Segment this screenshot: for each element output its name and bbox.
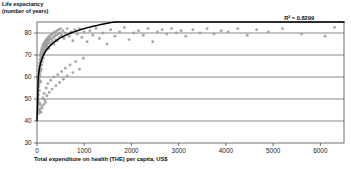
data-point <box>54 84 57 87</box>
data-point <box>64 67 67 70</box>
data-point <box>45 94 48 97</box>
data-point <box>142 34 145 37</box>
data-point <box>43 92 46 95</box>
scatter-plot: 304050607080 0100020003000400050006000 <box>0 0 351 169</box>
data-point <box>60 70 63 73</box>
data-point <box>123 26 126 29</box>
data-point <box>88 29 91 32</box>
data-point <box>69 63 72 66</box>
y-tick-label: 40 <box>24 117 32 124</box>
data-point <box>191 28 194 31</box>
data-point <box>137 29 140 32</box>
data-point <box>91 34 94 37</box>
data-point <box>86 40 89 43</box>
data-point <box>102 32 105 35</box>
data-point <box>246 34 249 37</box>
data-point <box>76 33 79 36</box>
x-tick-label: 3000 <box>172 147 187 154</box>
y-tick-label: 50 <box>24 95 32 102</box>
data-point <box>40 111 43 114</box>
plot-area-border <box>37 22 344 143</box>
data-point <box>58 81 61 84</box>
data-point <box>64 32 67 35</box>
data-point <box>147 27 150 30</box>
data-point <box>198 32 201 35</box>
data-point <box>236 27 239 30</box>
data-point <box>53 76 56 79</box>
data-point <box>62 37 65 40</box>
data-point <box>98 37 101 40</box>
data-point <box>62 78 65 81</box>
data-point <box>105 43 108 46</box>
data-point <box>156 30 159 33</box>
data-point <box>324 35 327 38</box>
data-point <box>78 68 81 71</box>
x-tick-label: 0 <box>35 147 39 154</box>
data-point <box>118 30 121 33</box>
y-tick-label: 30 <box>24 139 32 146</box>
data-point <box>109 28 112 31</box>
data-point <box>227 30 230 33</box>
data-point <box>267 30 270 33</box>
data-point <box>175 32 178 35</box>
data-point <box>95 27 98 30</box>
data-point <box>281 27 284 30</box>
data-point <box>71 39 74 42</box>
data-point <box>213 33 216 36</box>
data-point <box>45 87 48 90</box>
data-point <box>83 30 86 33</box>
chart-container: Life expectancy(number of years) 3040506… <box>0 0 351 169</box>
plot-background <box>37 22 344 143</box>
data-point <box>39 80 42 83</box>
y-tick-label: 80 <box>24 29 32 36</box>
data-point <box>61 29 64 32</box>
data-point <box>151 40 154 43</box>
y-tick-label: 60 <box>24 73 32 80</box>
data-point <box>66 27 69 30</box>
data-point <box>74 60 77 63</box>
data-point <box>42 103 45 106</box>
data-point <box>41 106 44 109</box>
data-point <box>68 35 71 38</box>
data-point <box>113 35 116 38</box>
data-point <box>300 33 303 36</box>
data-point <box>184 35 187 38</box>
x-axis-ticks: 0100020003000400050006000 <box>35 143 328 154</box>
data-point <box>40 68 43 71</box>
data-point <box>80 36 83 39</box>
data-point <box>46 82 49 85</box>
y-axis-ticks: 304050607080 <box>24 29 37 146</box>
x-tick-label: 5000 <box>266 147 281 154</box>
data-point <box>56 73 59 76</box>
y-tick-label: 70 <box>24 51 32 58</box>
data-point <box>161 28 164 31</box>
data-point <box>180 29 183 32</box>
data-point <box>66 74 69 77</box>
data-point <box>333 26 336 29</box>
data-point <box>165 33 168 36</box>
data-point <box>59 27 62 30</box>
data-point <box>41 96 44 99</box>
data-point <box>132 32 135 35</box>
x-axis-title: Total expenditure on health (THE) per ca… <box>34 156 167 162</box>
data-point <box>38 102 41 105</box>
data-point <box>51 88 54 91</box>
data-point <box>82 57 85 60</box>
data-point <box>71 71 74 74</box>
data-point <box>170 27 173 30</box>
data-point <box>128 38 131 41</box>
r-squared-annotation: R² = 0.8299 <box>284 15 314 21</box>
data-point <box>48 91 51 94</box>
x-tick-label: 2000 <box>124 147 139 154</box>
data-point <box>255 28 258 31</box>
x-tick-label: 4000 <box>219 147 234 154</box>
data-point <box>220 29 223 32</box>
data-point <box>49 79 52 82</box>
x-tick-label: 1000 <box>77 147 92 154</box>
data-point <box>206 27 209 30</box>
x-tick-label: 6000 <box>313 147 328 154</box>
